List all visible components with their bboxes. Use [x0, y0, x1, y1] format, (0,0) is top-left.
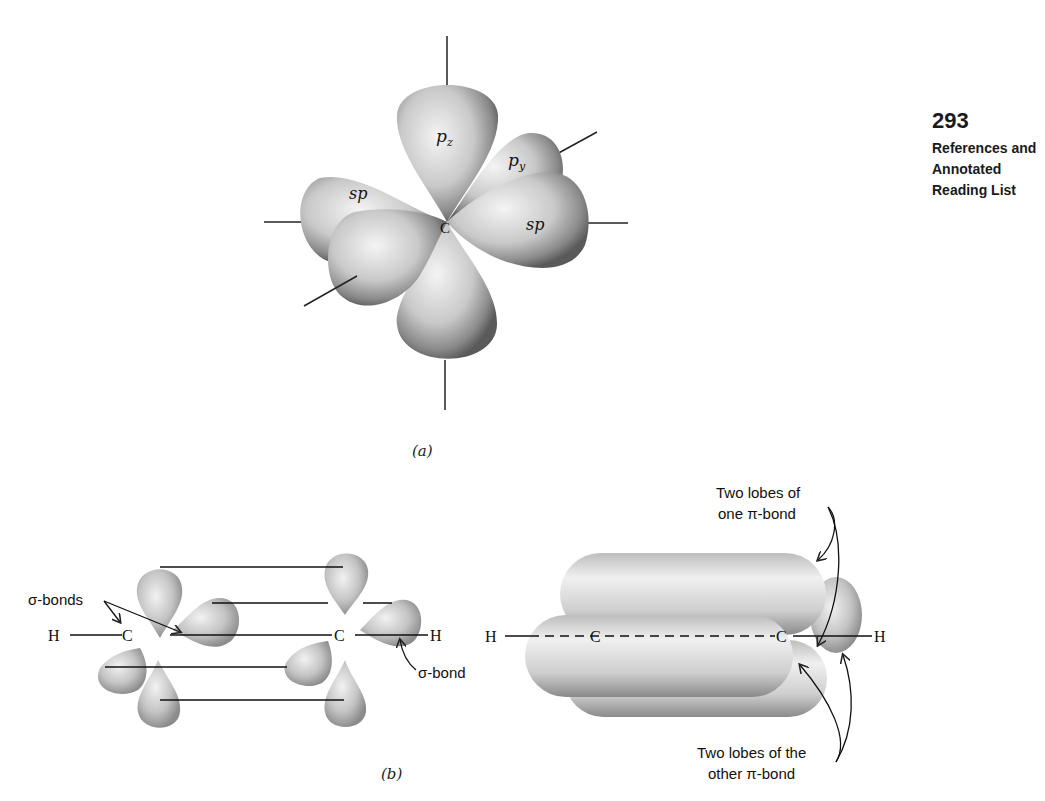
- figure-b-p-orbitals: H C C H σ-bonds σ-bond: [28, 554, 466, 728]
- hydrogen-right-label: H: [430, 627, 442, 644]
- hydrogen-left-label: H: [48, 627, 60, 644]
- pi-bond-bottom-label-line-1: Two lobes of the: [697, 744, 806, 761]
- pi-bond-top-label-line-2: one π-bond: [718, 505, 796, 522]
- pi-hydrogen-left-label: H: [485, 628, 497, 645]
- pi-carbon-2-label: C: [776, 628, 787, 645]
- pi-hydrogen-right-label: H: [874, 628, 886, 645]
- sigma-bond-label: σ-bond: [418, 664, 466, 681]
- pi-bond-top-label-line-1: Two lobes of: [716, 484, 801, 501]
- figure-b-pi-bonds: H C C H Two lobes of one π-bond Two lobe…: [485, 484, 886, 782]
- caption-b: (b): [381, 765, 402, 783]
- carbon-2-label: C: [334, 627, 345, 644]
- sp-right-label: sp: [526, 215, 544, 234]
- pi-bond-bottom-label-line-2: other π-bond: [708, 765, 795, 782]
- orbital-figure: pz py sp sp C (a) H C C H σ-bonds: [0, 0, 1045, 801]
- carbon-atom-label: C: [440, 220, 450, 236]
- sigma-bonds-label: σ-bonds: [28, 591, 83, 608]
- carbon-1-label: C: [122, 627, 133, 644]
- sp-left-label: sp: [349, 184, 367, 203]
- figure-a-sp-orbital: pz py sp sp C: [264, 36, 628, 410]
- caption-a: (a): [412, 442, 433, 460]
- pi-carbon-1-label: C: [590, 628, 601, 645]
